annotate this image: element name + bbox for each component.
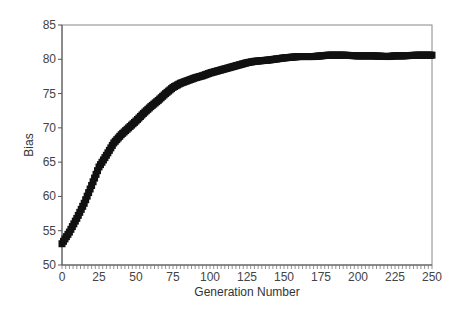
x-tick-label: 150 xyxy=(274,270,294,284)
y-tick-label: 65 xyxy=(43,155,57,169)
data-series-bias xyxy=(59,52,436,248)
y-tick-label: 50 xyxy=(43,258,57,272)
y-tick-label: 60 xyxy=(43,189,57,203)
y-tick-label: 85 xyxy=(43,18,57,32)
x-tick-label: 0 xyxy=(59,270,66,284)
x-tick-label: 175 xyxy=(311,270,331,284)
y-tick-label: 70 xyxy=(43,121,57,135)
x-tick-label: 75 xyxy=(166,270,180,284)
data-point-marker xyxy=(429,52,436,59)
x-tick-label: 225 xyxy=(385,270,405,284)
y-axis-title: Bias xyxy=(22,133,36,156)
x-tick-label: 250 xyxy=(422,270,442,284)
x-tick-label: 100 xyxy=(200,270,220,284)
y-axis-ticks: 5055606570758085 xyxy=(43,18,62,272)
bias-chart: 5055606570758085 02550751001251501752002… xyxy=(0,0,462,309)
x-tick-label: 125 xyxy=(237,270,257,284)
x-tick-label: 50 xyxy=(129,270,143,284)
x-tick-label: 25 xyxy=(92,270,106,284)
x-tick-label: 200 xyxy=(348,270,368,284)
x-axis-ticks: 0255075100125150175200225250 xyxy=(59,265,443,284)
x-axis-title: Generation Number xyxy=(194,285,299,299)
y-tick-label: 75 xyxy=(43,87,57,101)
y-tick-label: 55 xyxy=(43,224,57,238)
y-tick-label: 80 xyxy=(43,52,57,66)
